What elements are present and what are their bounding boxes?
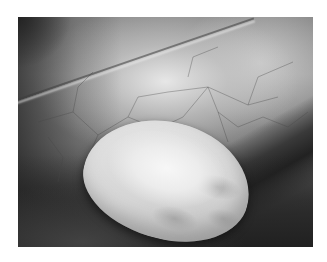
laparoscopic-photo	[18, 17, 313, 247]
